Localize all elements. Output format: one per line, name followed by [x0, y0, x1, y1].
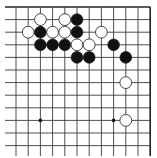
black-stone	[47, 39, 59, 51]
white-stone	[71, 39, 83, 51]
white-stone	[59, 26, 71, 38]
go-board[interactable]	[0, 0, 157, 158]
black-stone	[71, 14, 83, 26]
white-stone	[96, 26, 108, 38]
star-point	[39, 119, 43, 123]
white-stone	[83, 39, 95, 51]
black-stone	[59, 39, 71, 51]
black-stone	[108, 39, 120, 51]
black-stone	[35, 26, 47, 38]
white-stone	[22, 26, 34, 38]
star-point	[112, 119, 116, 123]
white-stone	[59, 14, 71, 26]
black-stone	[71, 52, 83, 64]
black-stone	[71, 26, 83, 38]
black-stone	[35, 39, 47, 51]
white-stone	[120, 77, 132, 89]
white-stone	[120, 115, 132, 127]
black-stone	[83, 52, 95, 64]
white-stone	[47, 26, 59, 38]
black-stone	[120, 52, 132, 64]
white-stone	[35, 14, 47, 26]
